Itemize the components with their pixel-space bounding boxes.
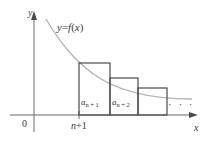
integral-test-figure: y x 0 n+1 y=f(x) an + 1 an + 2 · · · xyxy=(0,0,205,144)
curve-label: y=f(x) xyxy=(57,22,83,33)
y-axis xyxy=(31,11,37,132)
x-axis-label: x xyxy=(194,123,198,133)
curve-label-close: ) xyxy=(80,21,84,33)
rectangle-label-sub-1: n + 1 xyxy=(86,101,99,108)
rectangle-label-sub-2: n + 2 xyxy=(117,101,130,108)
rectangle-label-a-n-plus-2: an + 2 xyxy=(112,98,130,108)
y-axis-label: y xyxy=(28,8,32,18)
origin-label: 0 xyxy=(22,119,27,129)
tick-label-n-plus-1: n+1 xyxy=(71,121,87,131)
figure-canvas xyxy=(0,0,205,144)
tick-label-n-value: 1 xyxy=(82,120,87,131)
ellipsis-label: · · · xyxy=(168,98,195,110)
x-axis-arrowhead xyxy=(189,112,198,118)
rectangle-a-n-plus-3 xyxy=(138,88,167,115)
rectangle-label-a-n-plus-1: an + 1 xyxy=(81,98,99,108)
